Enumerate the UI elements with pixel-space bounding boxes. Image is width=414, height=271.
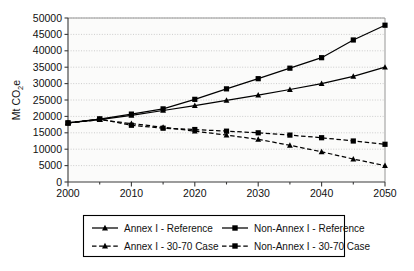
legend-label: Non-Annex I - 30-70 Case [254,241,371,252]
data-point-square [351,37,356,42]
y-tick-label: 50000 [33,12,62,24]
data-point-square [161,106,166,111]
y-tick-label: 30000 [33,77,62,89]
data-point-square [382,23,387,28]
data-point-square [224,86,229,91]
x-tick-label: 2050 [373,187,397,199]
x-tick-label: 2020 [183,187,207,199]
data-point-square [256,76,261,81]
data-point-square [129,123,134,128]
legend-label: Annex I - Reference [124,223,213,234]
data-point-square [382,142,387,147]
y-tick-label: 0 [56,176,62,188]
legend-marker-square [232,225,237,230]
y-tick-label: 25000 [33,94,62,106]
data-point-square [319,55,324,60]
y-tick-label: 20000 [33,110,62,122]
data-point-square [65,120,70,125]
x-tick-label: 2000 [56,187,80,199]
x-tick-label: 2030 [247,187,271,199]
y-tick-label: 35000 [33,61,62,73]
data-point-square [97,116,102,121]
data-point-square [287,133,292,138]
y-tick-label: 10000 [33,143,62,155]
chart-container: 0500010000150002000025000300003500040000… [0,0,414,271]
line-chart: 0500010000150002000025000300003500040000… [0,0,414,271]
data-point-square [192,97,197,102]
legend-marker-square [232,243,237,248]
data-point-square [192,127,197,132]
chart-legend[interactable]: Annex I - ReferenceNon-Annex I - Referen… [84,216,371,257]
data-point-square [256,130,261,135]
y-tick-label: 40000 [33,44,62,56]
x-tick-label: 2010 [120,187,144,199]
data-point-square [351,138,356,143]
y-tick-label: 15000 [33,126,62,138]
legend-label: Annex I - 30-70 Case [124,241,219,252]
data-point-square [287,66,292,71]
data-point-square [224,129,229,134]
x-tick-label: 2040 [310,187,334,199]
legend-label: Non-Annex I - Reference [254,223,365,234]
data-point-square [319,135,324,140]
data-point-square [129,112,134,117]
data-point-square [161,126,166,131]
y-tick-label: 5000 [39,159,63,171]
y-tick-label: 45000 [33,28,62,40]
